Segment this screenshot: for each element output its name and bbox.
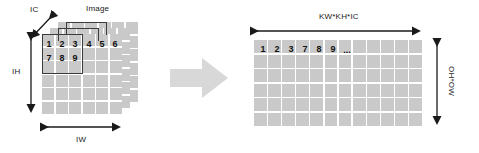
input-cell bbox=[96, 102, 108, 114]
output-cell bbox=[339, 69, 352, 82]
output-cell bbox=[395, 113, 408, 126]
output-cell bbox=[409, 69, 422, 82]
output-height-label: OH*OW bbox=[447, 66, 455, 96]
output-cell bbox=[268, 55, 281, 68]
output-cell bbox=[409, 40, 422, 53]
output-cell bbox=[409, 113, 422, 126]
output-cell bbox=[339, 55, 352, 68]
output-width-arrow bbox=[252, 26, 424, 36]
input-value-1: 1 bbox=[43, 40, 55, 49]
input-value-5: 5 bbox=[96, 40, 108, 49]
output-cell bbox=[409, 98, 422, 111]
output-cell bbox=[268, 69, 281, 82]
image-caption: Image bbox=[86, 5, 109, 13]
output-cell bbox=[381, 55, 394, 68]
output-cell bbox=[325, 69, 338, 82]
input-cell bbox=[83, 75, 95, 87]
input-width-label: IW bbox=[76, 136, 86, 144]
output-cell bbox=[367, 113, 380, 126]
output-cell bbox=[367, 69, 380, 82]
output-cell bbox=[282, 69, 295, 82]
output-cell bbox=[381, 69, 394, 82]
input-cell bbox=[83, 102, 95, 114]
output-cell bbox=[409, 55, 422, 68]
input-value-9: 9 bbox=[69, 54, 81, 63]
output-cell bbox=[296, 84, 309, 97]
input-cell bbox=[69, 102, 81, 114]
output-cell bbox=[282, 98, 295, 111]
output-cell bbox=[381, 113, 394, 126]
input-cell bbox=[83, 88, 95, 100]
output-cell bbox=[282, 55, 295, 68]
output-cell bbox=[339, 113, 352, 126]
output-value-2: 2 bbox=[270, 45, 284, 54]
output-cell bbox=[296, 98, 309, 111]
output-cell bbox=[409, 84, 422, 97]
output-value-5: 8 bbox=[312, 45, 326, 54]
output-cell bbox=[254, 55, 267, 68]
output-cell bbox=[254, 69, 267, 82]
output-cell bbox=[367, 84, 380, 97]
output-cell bbox=[395, 55, 408, 68]
input-cell bbox=[42, 75, 54, 87]
input-cell bbox=[110, 48, 122, 60]
output-cell bbox=[325, 84, 338, 97]
input-channel-label: IC bbox=[30, 6, 38, 14]
input-cell bbox=[69, 75, 81, 87]
input-value-3: 3 bbox=[69, 40, 81, 49]
output-cell bbox=[395, 84, 408, 97]
output-cell bbox=[268, 113, 281, 126]
input-cell bbox=[96, 88, 108, 100]
output-cell bbox=[325, 55, 338, 68]
output-cell bbox=[395, 69, 408, 82]
input-cell bbox=[96, 48, 108, 60]
input-value-8: 8 bbox=[56, 54, 68, 63]
output-cell bbox=[310, 69, 323, 82]
output-cell bbox=[268, 84, 281, 97]
output-height-arrow bbox=[432, 40, 442, 128]
input-cell bbox=[83, 61, 95, 73]
output-cell bbox=[353, 40, 366, 53]
input-cell bbox=[110, 61, 122, 73]
output-cell bbox=[254, 113, 267, 126]
output-cell bbox=[339, 84, 352, 97]
input-value-2: 2 bbox=[56, 40, 68, 49]
output-cell bbox=[310, 55, 323, 68]
input-cell bbox=[96, 61, 108, 73]
output-cell bbox=[282, 84, 295, 97]
output-cell bbox=[268, 98, 281, 111]
input-cell bbox=[56, 102, 68, 114]
output-cell bbox=[310, 84, 323, 97]
input-width-arrow bbox=[42, 122, 124, 132]
output-cell bbox=[395, 98, 408, 111]
output-cell bbox=[254, 84, 267, 97]
input-cell bbox=[96, 75, 108, 87]
input-value-7: 7 bbox=[43, 54, 55, 63]
input-cell bbox=[42, 88, 54, 100]
input-height-arrow bbox=[26, 34, 36, 116]
output-cell bbox=[367, 98, 380, 111]
output-cell bbox=[296, 55, 309, 68]
output-cell bbox=[296, 69, 309, 82]
output-cell bbox=[353, 84, 366, 97]
input-value-4: 4 bbox=[83, 40, 95, 49]
input-height-label: IH bbox=[12, 68, 20, 76]
output-cell bbox=[310, 98, 323, 111]
output-value-4: 7 bbox=[298, 45, 312, 54]
input-cell bbox=[56, 88, 68, 100]
transform-arrow-icon bbox=[168, 56, 230, 104]
input-value-6: 6 bbox=[109, 40, 121, 49]
output-cell bbox=[353, 55, 366, 68]
output-width-label: KW*KH*IC bbox=[319, 13, 359, 21]
output-cell bbox=[353, 69, 366, 82]
output-cell bbox=[282, 113, 295, 126]
output-value-6: 9 bbox=[326, 45, 340, 54]
output-cell bbox=[367, 40, 380, 53]
input-cell bbox=[42, 102, 54, 114]
output-cell bbox=[296, 113, 309, 126]
output-value-3: 3 bbox=[284, 45, 298, 54]
input-cell bbox=[56, 75, 68, 87]
input-cell bbox=[110, 102, 122, 114]
input-cell bbox=[69, 88, 81, 100]
output-value-1: 1 bbox=[256, 45, 270, 54]
